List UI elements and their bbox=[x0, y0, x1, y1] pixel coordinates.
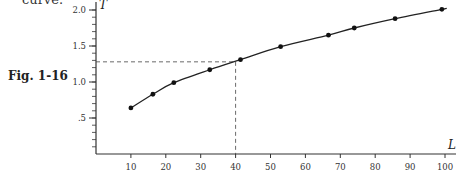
tick-labels: .51.01.52.0102030405060708090100TL bbox=[72, 0, 456, 172]
x-tick-label: 50 bbox=[265, 162, 276, 172]
x-tick-label: 40 bbox=[230, 162, 241, 172]
x-tick-label: 70 bbox=[335, 162, 346, 172]
axes bbox=[89, 2, 456, 158]
data-point bbox=[238, 57, 243, 62]
data-point bbox=[326, 33, 331, 38]
y-tick-label: 2.0 bbox=[72, 5, 86, 15]
x-tick-label: 30 bbox=[195, 162, 206, 172]
data-point bbox=[150, 92, 155, 97]
data-point bbox=[171, 80, 176, 85]
data-point bbox=[352, 26, 357, 31]
data-point bbox=[439, 7, 444, 12]
y-tick-label: 1.5 bbox=[72, 41, 86, 51]
y-axis-title: T bbox=[99, 0, 108, 12]
x-tick-label: 80 bbox=[370, 162, 381, 172]
x-tick-label: 20 bbox=[160, 162, 171, 172]
x-tick-label: 100 bbox=[437, 162, 453, 172]
curve-line bbox=[131, 8, 447, 108]
x-tick-label: 10 bbox=[125, 162, 136, 172]
x-tick-label: 90 bbox=[405, 162, 416, 172]
data-point bbox=[278, 44, 283, 49]
data-points bbox=[129, 7, 445, 110]
chart: .51.01.52.0102030405060708090100TL bbox=[0, 0, 464, 180]
data-point bbox=[129, 106, 134, 111]
y-tick-label: .5 bbox=[78, 113, 86, 123]
y-tick-label: 1.0 bbox=[72, 77, 86, 87]
dashed-guides bbox=[96, 62, 236, 154]
x-tick-label: 60 bbox=[300, 162, 311, 172]
x-axis-title: L bbox=[447, 138, 456, 152]
data-curve bbox=[131, 8, 447, 108]
data-point bbox=[393, 16, 398, 21]
data-point bbox=[207, 67, 212, 72]
